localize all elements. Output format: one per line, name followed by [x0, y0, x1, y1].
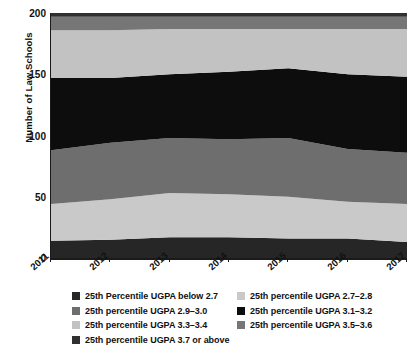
- legend-item-label: 25th Percentile UGPA below 2.7: [85, 291, 218, 301]
- legend-swatch-icon: [72, 321, 80, 329]
- legend-item[interactable]: 25th percentile UGPA 3.3–3.4: [72, 320, 237, 330]
- y-axis-tick-100: 100: [16, 130, 46, 141]
- legend-item[interactable]: 25th percentile UGPA 3.1–3.2: [237, 306, 402, 316]
- legend-item-label: 25th percentile UGPA 3.1–3.2: [250, 306, 372, 316]
- y-axis-tick-150: 150: [16, 69, 46, 80]
- legend-item-label: 25th percentile UGPA 2.7–2.8: [250, 291, 372, 301]
- legend-row: 25th Percentile UGPA below 2.725th perce…: [72, 291, 402, 301]
- x-axis-tick-labels: 2011201220132014201520162017: [0, 258, 412, 292]
- legend-swatch-icon: [237, 307, 245, 315]
- x-axis-tickmark-2012: [109, 258, 110, 262]
- legend-swatch-icon: [72, 336, 80, 344]
- legend-item[interactable]: 25th percentile UGPA 3.7 or above: [72, 335, 402, 345]
- y-axis-tick-50: 50: [16, 191, 46, 202]
- legend-row: 25th percentile UGPA 3.3–3.425th percent…: [72, 320, 402, 330]
- chart-legend: 25th Percentile UGPA below 2.725th perce…: [72, 291, 402, 349]
- area-band-6: [51, 13, 407, 17]
- legend-item[interactable]: 25th percentile UGPA 2.7–2.8: [237, 291, 402, 301]
- stacked-area-chart: Number of Law Schools 200150100500 20112…: [0, 0, 412, 359]
- legend-item[interactable]: 25th percentile UGPA 2.9–3.0: [72, 306, 237, 316]
- legend-item[interactable]: 25th Percentile UGPA below 2.7: [72, 291, 237, 301]
- area-band-4: [51, 29, 407, 78]
- legend-swatch-icon: [72, 292, 80, 300]
- legend-item-label: 25th percentile UGPA 3.7 or above: [85, 335, 229, 345]
- legend-row: 25th percentile UGPA 2.9–3.025th percent…: [72, 306, 402, 316]
- y-axis-tick-labels: 200150100500: [14, 0, 46, 359]
- y-axis-tick-200: 200: [16, 8, 46, 19]
- x-axis-tickmark-2015: [287, 258, 288, 262]
- legend-item-label: 25th percentile UGPA 2.9–3.0: [85, 306, 207, 316]
- area-band-5: [51, 17, 407, 30]
- legend-swatch-icon: [237, 321, 245, 329]
- legend-item-label: 25th percentile UGPA 3.5–3.6: [250, 320, 372, 330]
- legend-swatch-icon: [237, 292, 245, 300]
- area-series-group: [51, 13, 407, 258]
- legend-swatch-icon: [72, 307, 80, 315]
- legend-item[interactable]: 25th percentile UGPA 3.5–3.6: [237, 320, 402, 330]
- legend-row: 25th percentile UGPA 3.7 or above: [72, 335, 402, 345]
- legend-item-label: 25th percentile UGPA 3.3–3.4: [85, 320, 207, 330]
- plot-area: [50, 13, 407, 258]
